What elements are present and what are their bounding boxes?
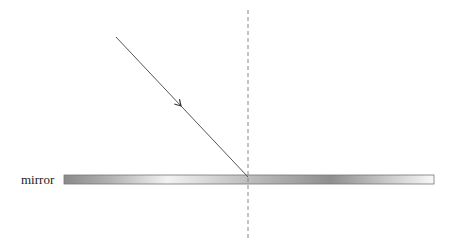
mirror	[64, 175, 434, 184]
mirror-label: mirror	[21, 172, 54, 188]
incident-ray	[116, 37, 248, 177]
reflection-diagram	[0, 0, 454, 247]
